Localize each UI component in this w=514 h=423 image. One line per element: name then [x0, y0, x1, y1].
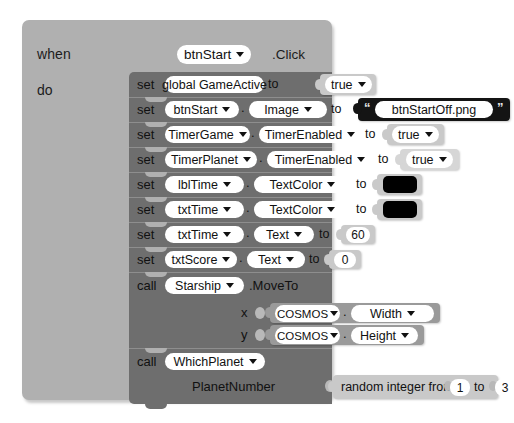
component-dropdown-txtscore[interactable]: txtScore	[165, 251, 237, 268]
event-component-dropdown[interactable]: btnStart	[177, 45, 251, 64]
property-name-label: Text	[258, 253, 281, 267]
logic-dropdown-3[interactable]: true	[406, 151, 453, 168]
set-btnstart-image-row[interactable]: set btnStart . Image to “ btnStartOff.pn…	[129, 97, 332, 122]
call-whichplanet-block[interactable]: call WhichPlanet PlanetNumber random int…	[129, 348, 332, 404]
set-timerplanet-timerenabled-row[interactable]: set TimerPlanet . TimerEnabled to true	[129, 147, 332, 172]
component-dropdown-btnstart[interactable]: btnStart	[165, 101, 239, 118]
set-keyword-label: set	[137, 152, 154, 167]
random-from-value[interactable]: 1	[450, 379, 470, 396]
text-string-block[interactable]: “ btnStartOff.png ”	[358, 98, 510, 121]
chevron-down-icon	[286, 257, 294, 262]
component-dropdown-txttime-2[interactable]: txtTime	[165, 226, 244, 243]
random-to-value[interactable]: 3	[495, 379, 514, 396]
property-dropdown-text-2[interactable]: Text	[247, 251, 305, 268]
property-dropdown-height[interactable]: Height	[351, 327, 418, 344]
chevron-down-icon	[407, 311, 415, 316]
dot-separator: .	[246, 200, 250, 215]
chevron-down-icon	[223, 207, 231, 212]
arg-socket-y	[255, 329, 265, 341]
block-plug	[353, 103, 362, 114]
call-starship-moveto-block[interactable]: call Starship .MoveTo x COSMOS .	[129, 272, 332, 348]
property-dropdown-textcolor[interactable]: TextColor	[254, 176, 351, 193]
block-plug	[265, 307, 274, 318]
component-name-label: btnStart	[174, 103, 218, 117]
logic-dropdown-2[interactable]: true	[392, 126, 439, 143]
random-prefix-label: random integer from	[341, 380, 454, 394]
event-block-btnstart-click[interactable]: when btnStart .Click do set global GameA…	[22, 20, 332, 400]
variable-field-global-gameactive[interactable]: global GameActive	[165, 76, 264, 93]
to-label: to	[268, 77, 278, 91]
logic-true-block-3[interactable]: true	[400, 149, 459, 170]
property-name-label: TextColor	[270, 203, 323, 217]
component-dropdown-cosmos-x[interactable]: COSMOS	[275, 305, 340, 322]
random-mid-label: to	[474, 380, 484, 394]
dot-separator: .	[343, 326, 347, 341]
block-plug	[382, 129, 391, 140]
close-quote-icon: ”	[497, 100, 504, 115]
property-dropdown-timerenabled-2[interactable]: TimerEnabled	[267, 151, 373, 168]
set-txttime-text-row[interactable]: set txtTime . Text to 60	[129, 222, 332, 247]
color-block-1[interactable]	[377, 174, 422, 195]
number-block-60[interactable]: 60	[341, 225, 375, 244]
getter-block-cosmos-width[interactable]: COSMOS . Width	[270, 303, 440, 323]
procedure-dropdown-whichplanet[interactable]: WhichPlanet	[165, 353, 265, 370]
property-dropdown-text[interactable]: Text	[254, 226, 314, 243]
number-value-field[interactable]: 60	[346, 227, 370, 243]
chevron-down-icon	[357, 157, 365, 162]
block-plug	[372, 179, 381, 190]
property-dropdown-textcolor-2[interactable]: TextColor	[254, 201, 351, 218]
stack-foot-notch	[145, 404, 167, 409]
chevron-down-icon	[401, 333, 409, 338]
variable-name-label: global GameActive	[162, 78, 267, 92]
chevron-down-icon	[330, 333, 338, 338]
set-keyword-label: set	[137, 202, 154, 217]
number-value-field[interactable]: 0	[334, 252, 356, 268]
set-txttime-textcolor-row[interactable]: set txtTime . TextColor to	[129, 197, 332, 222]
block-plug	[324, 254, 333, 265]
set-txtscore-text-row[interactable]: set txtScore . Text to 0	[129, 247, 332, 272]
logic-value-label: true	[331, 78, 353, 92]
component-dropdown-timerplanet[interactable]: TimerPlanet	[165, 151, 257, 168]
math-random-integer-block[interactable]: random integer from 1 to 3	[333, 375, 498, 399]
dot-separator: .	[246, 225, 250, 240]
chevron-down-icon	[239, 132, 247, 137]
number-block-0[interactable]: 0	[329, 250, 361, 269]
to-label: to	[365, 127, 375, 141]
chevron-down-icon	[236, 52, 244, 57]
dot-separator: .	[251, 125, 255, 140]
open-quote-icon: “	[364, 100, 371, 115]
arg-socket-x	[255, 307, 265, 319]
block-notch	[145, 272, 167, 277]
color-swatch-black[interactable]	[383, 201, 417, 218]
color-swatch-black[interactable]	[383, 176, 417, 193]
event-component-label: btnStart	[184, 47, 231, 62]
chevron-down-icon	[226, 283, 234, 288]
set-timergame-timerenabled-row[interactable]: set TimerGame . TimerEnabled to true	[129, 122, 332, 147]
event-name-label: .Click	[272, 47, 305, 62]
set-global-gameactive-row[interactable]: set global GameActive to true	[129, 72, 332, 97]
logic-true-block-1[interactable]: true	[320, 74, 376, 95]
blocks-canvas[interactable]: when btnStart .Click do set global GameA…	[0, 0, 514, 423]
color-block-2[interactable]	[377, 199, 422, 220]
component-dropdown-lbltime[interactable]: lblTime	[165, 176, 244, 193]
property-name-label: TextColor	[270, 178, 323, 192]
block-plug	[395, 154, 404, 165]
property-dropdown-width[interactable]: Width	[351, 305, 434, 322]
component-dropdown-txttime[interactable]: txtTime	[165, 201, 244, 218]
component-dropdown-timergame[interactable]: TimerGame	[165, 126, 250, 143]
logic-dropdown-1[interactable]: true	[325, 76, 372, 93]
chevron-down-icon	[249, 359, 257, 364]
component-dropdown-starship[interactable]: Starship	[165, 277, 244, 294]
property-dropdown-image[interactable]: Image	[249, 101, 327, 118]
logic-true-block-2[interactable]: true	[387, 124, 444, 145]
getter-block-cosmos-height[interactable]: COSMOS . Height	[270, 325, 424, 345]
chevron-down-icon	[439, 157, 447, 162]
block-plug	[372, 204, 381, 215]
property-name-label: TimerEnabled	[265, 128, 342, 142]
set-lbltime-textcolor-row[interactable]: set lblTime . TextColor to	[129, 172, 332, 197]
text-value-field[interactable]: btnStartOff.png	[375, 101, 493, 118]
component-dropdown-cosmos-y[interactable]: COSMOS	[275, 327, 340, 344]
property-name-label: TimerEnabled	[275, 153, 352, 167]
to-label: to	[309, 252, 319, 266]
property-dropdown-timerenabled[interactable]: TimerEnabled	[259, 126, 361, 143]
